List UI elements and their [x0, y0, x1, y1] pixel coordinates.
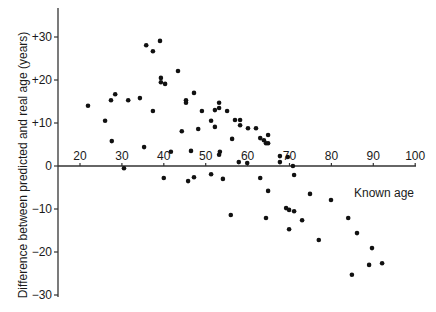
- data-point: [308, 192, 313, 197]
- data-point: [151, 49, 156, 54]
- data-point: [278, 160, 283, 165]
- y-tick-label: 0: [45, 159, 52, 173]
- data-point: [346, 216, 351, 221]
- data-point: [266, 141, 271, 146]
- y-tick-label: +10: [32, 116, 53, 130]
- x-tick-label: 50: [199, 149, 213, 163]
- data-point: [258, 176, 263, 181]
- data-point: [238, 118, 243, 123]
- y-tick-label: +20: [32, 73, 53, 87]
- data-point: [103, 119, 108, 124]
- data-point: [184, 101, 189, 106]
- y-axis-title: Difference between predicted and real ag…: [16, 32, 30, 299]
- data-point: [278, 154, 283, 159]
- data-point: [180, 129, 185, 134]
- data-point: [217, 106, 222, 111]
- data-point: [159, 80, 164, 85]
- data-point: [221, 177, 226, 182]
- scatter-chart: +30+20+100−10−20−30 2030405060708090100 …: [0, 0, 436, 312]
- data-point: [350, 273, 355, 278]
- data-point: [113, 92, 118, 97]
- data-point: [287, 227, 292, 232]
- x-tick-label: 20: [73, 149, 87, 163]
- data-point: [266, 133, 271, 138]
- data-point: [292, 209, 297, 214]
- data-point: [237, 160, 242, 165]
- y-tick-label: −20: [32, 245, 53, 259]
- data-point: [367, 263, 372, 268]
- data-point: [355, 231, 360, 236]
- data-point: [186, 179, 191, 184]
- data-point: [300, 218, 305, 223]
- data-point: [196, 127, 201, 132]
- data-point: [317, 238, 322, 243]
- data-point: [151, 109, 156, 114]
- data-point: [254, 126, 259, 131]
- x-tick-label: 100: [405, 149, 425, 163]
- data-point: [229, 213, 234, 218]
- data-point: [142, 145, 147, 150]
- data-point: [329, 198, 334, 203]
- data-point: [163, 82, 168, 87]
- x-tick-label: 80: [325, 149, 339, 163]
- y-axis: +30+20+100−10−20−30: [32, 8, 58, 302]
- data-point: [209, 119, 214, 124]
- data-point: [169, 150, 174, 155]
- x-tick-label: 30: [115, 149, 129, 163]
- x-axis-title: Known age: [354, 186, 414, 200]
- data-point: [192, 91, 197, 96]
- data-point: [158, 39, 163, 44]
- data-point: [233, 118, 238, 123]
- data-point: [176, 69, 181, 74]
- data-point: [159, 76, 164, 81]
- data-point: [86, 104, 91, 109]
- data-point: [213, 125, 218, 130]
- data-point: [213, 108, 218, 113]
- data-point: [126, 98, 131, 103]
- data-point: [162, 176, 167, 181]
- y-tick-label: +30: [32, 30, 53, 44]
- data-point: [192, 175, 197, 180]
- x-axis: 2030405060708090100: [58, 149, 426, 166]
- data-point: [292, 173, 297, 178]
- data-point: [246, 126, 251, 131]
- data-point: [189, 149, 194, 154]
- data-point: [291, 164, 296, 169]
- data-point: [217, 153, 222, 158]
- data-point: [144, 43, 149, 48]
- y-tick-label: −30: [32, 288, 53, 302]
- data-point: [286, 155, 291, 160]
- data-point: [225, 109, 230, 114]
- data-point: [266, 189, 271, 194]
- data-point: [370, 246, 375, 251]
- data-point: [287, 208, 292, 213]
- y-tick-label: −10: [32, 202, 53, 216]
- x-tick-label: 90: [367, 149, 381, 163]
- data-point: [245, 161, 250, 166]
- data-point: [200, 109, 205, 114]
- data-point: [109, 98, 114, 103]
- data-point: [217, 101, 222, 106]
- data-point: [122, 166, 127, 171]
- data-point: [238, 123, 243, 128]
- data-point: [380, 261, 385, 266]
- data-point: [209, 172, 214, 177]
- data-point: [110, 139, 115, 144]
- data-point: [264, 216, 269, 221]
- data-points: [86, 39, 385, 278]
- data-point: [230, 137, 235, 142]
- data-point: [138, 96, 143, 101]
